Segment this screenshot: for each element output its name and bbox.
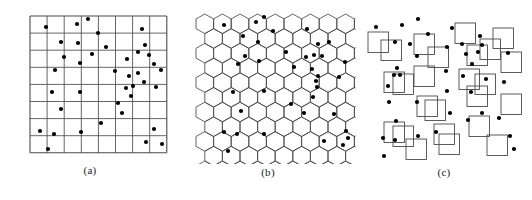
data-point [152,127,156,131]
data-point [46,147,50,151]
quadrat-square [428,47,449,68]
data-point [222,23,226,27]
data-point [394,119,398,123]
data-point [59,107,63,111]
data-point [292,65,296,69]
data-point [450,26,454,30]
data-point [346,136,350,140]
data-point [327,40,331,44]
quadrat-square [393,74,414,95]
quadrat-squares [368,23,522,160]
quadrat-square [406,139,427,160]
data-point [136,50,140,54]
data-point [392,73,396,77]
hexagon-cell [328,146,346,166]
data-point [127,74,131,78]
data-point [484,77,488,81]
data-point [464,52,468,56]
figure-canvas: (a) (b) (c) [0,0,532,200]
data-point [461,74,465,78]
hexagon-cell [205,117,223,137]
quadrat-square [414,66,435,87]
hexagon-cell [275,146,293,166]
quadrat-square [368,32,389,53]
data-point [231,90,235,94]
data-point [62,55,66,59]
hexagon-cell [240,117,258,137]
hexagon-cell [205,29,223,49]
hexagon-cell [205,88,223,108]
data-point [416,134,420,138]
hexagon-cell [214,73,232,93]
hexagon-cell [310,146,328,166]
data-point [271,29,275,33]
hexagon-cell [266,14,284,34]
data-point [116,101,120,105]
data-point [143,43,147,47]
data-point [241,34,245,38]
data-point [59,40,63,44]
hexagon-grid [196,14,356,181]
data-point [262,15,266,19]
hexagon-cell [346,29,356,49]
data-point [86,17,90,21]
data-point [445,45,449,49]
data-point [445,89,449,93]
hexagon-cell [214,102,232,122]
data-point [235,132,239,136]
hexagon-cell [337,132,355,152]
data-point [506,51,510,55]
hexagon-cell [328,29,346,49]
data-point [113,69,117,73]
hexagon-cell [258,88,276,108]
data-point [304,55,308,59]
hexagon-cell [293,117,311,137]
data-point [152,62,156,66]
hexagon-cell [346,88,356,108]
data-point [466,118,470,122]
hexagon-cell [293,29,311,49]
hexagon-cell [266,132,284,152]
data-point [502,80,506,84]
data-point [131,84,135,88]
quadrat-square [381,40,402,61]
data-point [239,109,243,113]
data-point [415,54,419,58]
data-point [448,111,452,115]
hexagon-cell [284,132,302,152]
hexagon-cell [231,43,249,63]
data-point [497,116,501,120]
data-point [75,22,79,26]
data-point [136,71,140,75]
quadrat-square [414,34,435,55]
data-point [257,59,261,63]
panel-b-caption: (b) [180,166,356,178]
data-point [50,90,54,94]
data-point [289,102,293,106]
data-point [44,25,48,29]
hexagon-cell [231,14,249,34]
data-point [147,53,151,57]
data-point [311,95,315,99]
data-point [398,73,402,77]
hexagon-cell [231,73,249,93]
data-point [322,139,326,143]
hexagon-cell [328,88,346,108]
hexagon-cell [319,132,337,152]
hexagon-cell [196,73,214,93]
hexagon-cell [249,102,267,122]
hexagon-cell [222,29,240,49]
data-point [38,129,42,133]
data-point [159,68,163,72]
data-point [386,84,390,88]
quadrat-square [480,39,501,60]
hexagon-cell [310,117,328,137]
hexagon-cell [222,146,240,166]
hexagon-cell [337,14,355,34]
data-point [236,62,240,66]
quadrat-square [493,28,514,49]
data-point [53,68,57,72]
quadrat-square [467,45,488,66]
data-point [262,132,266,136]
hexagon-cell [240,146,258,166]
